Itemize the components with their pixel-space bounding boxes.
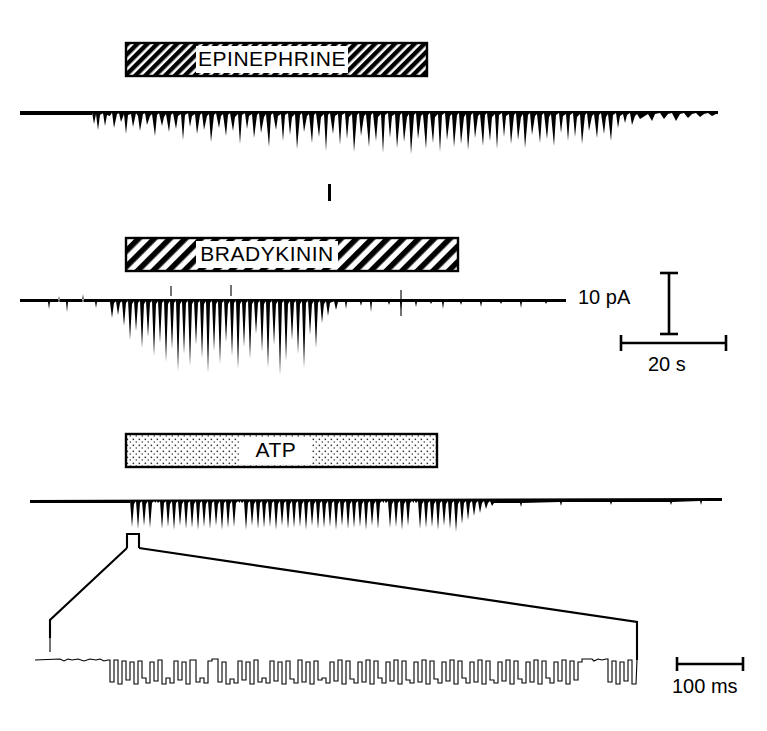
bradykinin-bar-label: BRADYKININ <box>200 242 333 265</box>
atp-bar-label: ATP <box>256 438 297 461</box>
figure-canvas: EPINEPHRINE BRADYKININ ATP <box>0 0 767 731</box>
noise-artifact-mark <box>328 184 331 201</box>
epinephrine-bar-label: EPINEPHRINE <box>198 47 346 70</box>
epinephrine-application-bar: EPINEPHRINE <box>126 43 427 76</box>
time-scale-label: 20 s <box>648 353 686 375</box>
current-scale-label: 10 pA <box>578 286 631 308</box>
electrophysiology-figure: EPINEPHRINE BRADYKININ ATP <box>0 0 767 731</box>
expanded-time-scale-label: 100 ms <box>672 675 738 697</box>
bradykinin-application-bar: BRADYKININ <box>126 238 458 271</box>
time-scale-bar-expanded: 100 ms <box>672 657 743 697</box>
atp-application-bar: ATP <box>126 434 437 467</box>
